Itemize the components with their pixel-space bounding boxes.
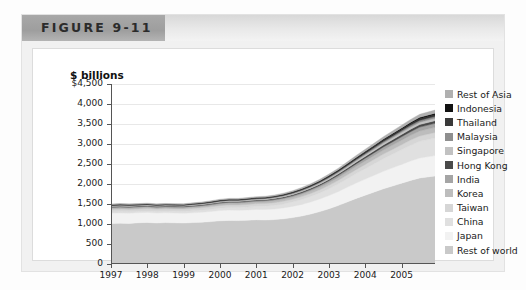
- legend-swatch-icon: [445, 147, 453, 155]
- legend-item-label: Taiwan: [457, 202, 489, 213]
- y-tick-label: 1,500: [77, 198, 103, 208]
- x-tick-label: 2000: [205, 270, 235, 280]
- y-tick-label: 2,000: [77, 178, 103, 188]
- y-tick-mark: [107, 144, 111, 145]
- x-tick-label: 2004: [350, 270, 380, 280]
- x-tick-mark: [365, 264, 366, 268]
- legend-item[interactable]: China: [445, 215, 526, 229]
- y-tick-mark: [107, 84, 111, 85]
- legend-swatch-icon: [445, 90, 453, 98]
- plot-area: [111, 84, 435, 264]
- legend-item-label: Rest of Asia: [457, 89, 512, 100]
- y-tick-mark: [107, 204, 111, 205]
- x-tick-mark: [111, 264, 112, 268]
- legend-item[interactable]: Korea: [445, 186, 526, 200]
- legend-item[interactable]: Hong Kong: [445, 158, 526, 172]
- y-tick-label: 0: [97, 258, 103, 268]
- figure-number-label: FIGURE 9-11: [41, 20, 153, 35]
- x-tick-mark: [402, 264, 403, 268]
- legend-swatch-icon: [445, 189, 453, 197]
- x-tick-mark: [184, 264, 185, 268]
- legend-item-label: Hong Kong: [457, 160, 508, 171]
- legend-swatch-icon: [445, 133, 453, 141]
- chart-legend: Rest of AsiaIndonesiaThailandMalaysiaSin…: [445, 87, 526, 257]
- y-tick-label: 4,000: [77, 98, 103, 108]
- legend-item[interactable]: Rest of Asia: [445, 87, 526, 101]
- legend-item[interactable]: Indonesia: [445, 101, 526, 115]
- legend-swatch-icon: [445, 175, 453, 183]
- y-tick-label: 3,500: [77, 118, 103, 128]
- y-tick-mark: [107, 164, 111, 165]
- legend-item-label: Thailand: [457, 117, 497, 128]
- legend-item[interactable]: Rest of world: [445, 243, 526, 257]
- y-tick-label: 1,000: [77, 218, 103, 228]
- legend-swatch-icon: [445, 246, 453, 254]
- legend-item-label: China: [457, 216, 484, 227]
- legend-swatch-icon: [445, 218, 453, 226]
- y-tick-mark: [107, 184, 111, 185]
- y-tick-mark: [107, 104, 111, 105]
- legend-item-label: Indonesia: [457, 103, 502, 114]
- y-tick-label: 2,500: [77, 158, 103, 168]
- x-tick-label: 2002: [278, 270, 308, 280]
- legend-item[interactable]: Japan: [445, 229, 526, 243]
- legend-item-label: India: [457, 174, 480, 185]
- legend-item-label: Korea: [457, 188, 483, 199]
- x-tick-label: 1998: [132, 270, 162, 280]
- figure-header-band: FIGURE 9-11: [22, 15, 504, 41]
- legend-item[interactable]: Malaysia: [445, 130, 526, 144]
- x-tick-mark: [256, 264, 257, 268]
- x-tick-mark: [147, 264, 148, 268]
- legend-item-label: Singapore: [457, 145, 504, 156]
- x-tick-mark: [220, 264, 221, 268]
- y-tick-label: 500: [86, 238, 103, 248]
- x-tick-label: 2001: [241, 270, 271, 280]
- legend-item[interactable]: Singapore: [445, 144, 526, 158]
- legend-swatch-icon: [445, 118, 453, 126]
- chart-panel: $ billions $4,5004,0003,5003,0002,5002,0…: [32, 48, 494, 261]
- x-tick-label: 1997: [96, 270, 126, 280]
- y-tick-mark: [107, 224, 111, 225]
- x-tick-mark: [329, 264, 330, 268]
- x-tick-mark: [293, 264, 294, 268]
- x-tick-label: 2005: [387, 270, 417, 280]
- legend-swatch-icon: [445, 232, 453, 240]
- y-tick-label: $4,500: [72, 78, 104, 88]
- x-tick-label: 1999: [169, 270, 199, 280]
- legend-item[interactable]: Thailand: [445, 115, 526, 129]
- y-tick-mark: [107, 124, 111, 125]
- figure-screenshot: FIGURE 9-11 $ billions $4,5004,0003,5003…: [0, 0, 526, 290]
- legend-item[interactable]: India: [445, 172, 526, 186]
- figure-card: FIGURE 9-11 $ billions $4,5004,0003,5003…: [22, 15, 504, 271]
- legend-item[interactable]: Taiwan: [445, 201, 526, 215]
- y-tick-label: 3,000: [77, 138, 103, 148]
- legend-item-label: Japan: [457, 230, 483, 241]
- legend-swatch-icon: [445, 104, 453, 112]
- x-tick-label: 2003: [314, 270, 344, 280]
- legend-item-label: Malaysia: [457, 131, 498, 142]
- plot-axes-frame: [111, 84, 435, 264]
- legend-swatch-icon: [445, 161, 453, 169]
- y-tick-mark: [107, 244, 111, 245]
- legend-item-label: Rest of world: [457, 245, 518, 256]
- legend-swatch-icon: [445, 204, 453, 212]
